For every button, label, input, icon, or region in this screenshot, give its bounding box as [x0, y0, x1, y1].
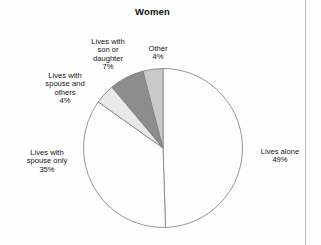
pie-label-text: Lives with son or daughter	[91, 37, 124, 63]
pie-label-lives-with-spouse-only: Lives with spouse only 35%	[6, 140, 88, 183]
pie-label-percent: 4%	[26, 97, 104, 106]
pie-label-text: Lives with spouse only	[27, 148, 68, 166]
pie-label-percent: 35%	[6, 166, 88, 175]
pie-label-lives-alone: Lives alone 49%	[246, 139, 314, 173]
pie-slice	[163, 69, 242, 228]
pie-slice-group	[84, 69, 243, 228]
pie-label-percent: 49%	[246, 156, 314, 165]
chart-page: Women Lives with son or daughter 7% Othe…	[0, 0, 321, 245]
pie-label-other: Other 4%	[136, 36, 180, 70]
pie-label-text: Lives with spouse and others	[45, 71, 84, 97]
pie-label-percent: 4%	[136, 53, 180, 62]
pie-label-lives-with-spouse-and-others: Lives with spouse and others 4%	[26, 63, 104, 115]
